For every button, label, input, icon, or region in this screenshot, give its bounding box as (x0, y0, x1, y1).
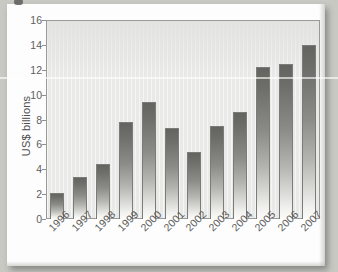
bar[interactable] (142, 102, 156, 219)
bar[interactable] (165, 128, 179, 219)
y-tick-label: 8 (18, 114, 42, 125)
y-tick-label: 10 (18, 89, 42, 100)
bar-slot (92, 20, 115, 219)
bar-slot (46, 20, 69, 219)
bar-chart: US$ billions 0246810121416 1996199719981… (0, 0, 338, 272)
y-tick-label: 16 (18, 15, 42, 26)
bar[interactable] (119, 122, 133, 219)
y-tick-label: 4 (18, 164, 42, 175)
bar-slot (183, 20, 206, 219)
y-tick-label: 6 (18, 139, 42, 150)
bar-slot (206, 20, 229, 219)
bar[interactable] (210, 126, 224, 219)
bar-slot (69, 20, 92, 219)
y-tick-label: 14 (18, 40, 42, 51)
y-tick-label: 2 (18, 189, 42, 200)
y-tick-label: 12 (18, 65, 42, 76)
y-axis-label: US$ billions (20, 56, 32, 196)
bar[interactable] (302, 45, 316, 219)
bar-slot (274, 20, 297, 219)
y-tick-label: 0 (18, 214, 42, 225)
bar-slot (137, 20, 160, 219)
bar[interactable] (233, 112, 247, 219)
bar-slot (229, 20, 252, 219)
bar-slot (252, 20, 275, 219)
bar-series (46, 20, 320, 219)
bar[interactable] (256, 67, 270, 219)
bar[interactable] (279, 64, 293, 219)
y-tick-mark (42, 219, 46, 220)
bar-slot (160, 20, 183, 219)
bar-slot (297, 20, 320, 219)
bar-slot (115, 20, 138, 219)
scanned-figure: US$ billions 0246810121416 1996199719981… (0, 0, 338, 272)
